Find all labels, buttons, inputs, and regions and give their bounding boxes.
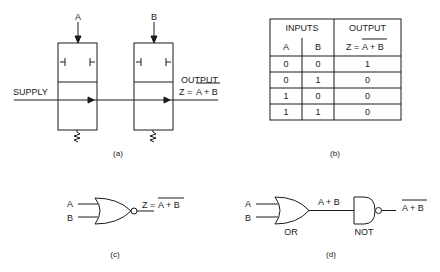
valve-b-blocked-port-left-icon xyxy=(136,58,141,66)
flow-arrow-b-icon xyxy=(164,97,170,103)
valve-a-body xyxy=(58,43,97,130)
or-input-a-label: A xyxy=(245,199,251,209)
row-4-b: 1 xyxy=(315,107,320,117)
valve-b-spring-icon xyxy=(150,130,156,142)
header-inputs: INPUTS xyxy=(285,23,318,33)
or-input-b-label: B xyxy=(245,213,251,223)
valve-a-blocked-port-left-icon xyxy=(60,58,65,66)
row-3-z: 0 xyxy=(365,91,370,101)
row-2-z: 0 xyxy=(365,75,370,85)
nor-output-expression: A + B xyxy=(158,200,180,210)
caption-b: (b) xyxy=(330,149,340,158)
not-gate-body-icon xyxy=(354,197,375,224)
caption-a: (a) xyxy=(113,149,123,158)
nor-gate-body-icon xyxy=(95,198,131,224)
nor-output-prefix: Z = xyxy=(142,200,155,210)
row-1-a: 0 xyxy=(283,59,288,69)
column-b-header: B xyxy=(315,42,321,52)
row-3-a: 1 xyxy=(283,91,288,101)
header-output: OUTPUT xyxy=(349,23,387,33)
output-expression-prefix: Z = xyxy=(179,87,192,97)
row-1-b: 0 xyxy=(315,59,320,69)
row-2-b: 1 xyxy=(315,75,320,85)
nor-input-a-label: A xyxy=(67,199,73,209)
caption-c: (c) xyxy=(110,250,120,259)
truth-table-lines xyxy=(270,19,401,120)
valve-input-b-label: B xyxy=(151,12,157,22)
valve-b-blocked-port-right-icon xyxy=(166,58,171,66)
column-z-prefix: Z = xyxy=(346,42,359,52)
valve-a-blocked-port-right-icon xyxy=(90,58,95,66)
row-1-z: 1 xyxy=(365,59,370,69)
input-a-arrow-icon xyxy=(75,36,81,43)
column-z-expression: A + B xyxy=(362,42,384,52)
nor-input-b-label: B xyxy=(67,213,73,223)
not-gate-label: NOT xyxy=(355,227,375,237)
intermediate-or-label: A + B xyxy=(318,197,340,207)
final-output-expression: A + B xyxy=(402,203,424,213)
valve-b-body xyxy=(134,43,173,130)
row-4-z: 0 xyxy=(365,107,370,117)
nor-logic-figure: A B SUPPLY OUTPUT Z = A + B (a) INPUTS O… xyxy=(0,0,440,272)
or-gate-label: OR xyxy=(284,227,298,237)
output-label: OUTPUT xyxy=(181,75,219,85)
input-b-arrow-icon xyxy=(151,36,157,43)
flow-arrow-a-icon xyxy=(88,97,94,103)
row-3-b: 0 xyxy=(315,91,320,101)
or-gate-body-icon xyxy=(275,197,309,224)
not-inversion-bubble-icon xyxy=(376,208,382,214)
row-2-a: 0 xyxy=(283,75,288,85)
supply-label: SUPPLY xyxy=(13,87,48,97)
valve-a-spring-icon xyxy=(74,130,80,142)
row-4-a: 1 xyxy=(283,107,288,117)
column-a-header: A xyxy=(283,42,289,52)
valve-input-a-label: A xyxy=(75,12,81,22)
nor-inversion-bubble-icon xyxy=(131,208,137,214)
caption-d: (d) xyxy=(326,250,336,259)
output-expression: A + B xyxy=(196,87,218,97)
